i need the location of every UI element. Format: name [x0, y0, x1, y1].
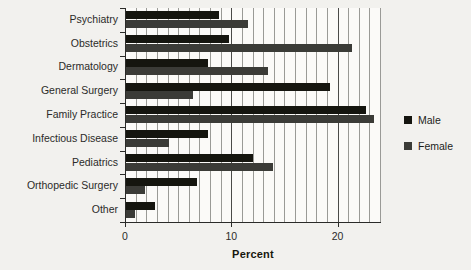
- y-tick: [120, 103, 125, 104]
- bar-female: [125, 186, 145, 194]
- y-axis-label: Pediatrics: [0, 156, 118, 168]
- bar-group: [125, 198, 380, 222]
- bar-female: [125, 67, 268, 75]
- y-axis-label: Other: [0, 203, 118, 215]
- bar-male: [125, 154, 253, 162]
- x-tick: [231, 222, 232, 227]
- y-axis-label: Family Practice: [0, 108, 118, 120]
- legend-label-female: Female: [418, 140, 453, 152]
- bar-female: [125, 44, 352, 52]
- plot-area: [125, 8, 380, 222]
- x-tick: [125, 222, 126, 227]
- y-axis-line: [125, 8, 126, 223]
- bar-group: [125, 32, 380, 56]
- y-tick: [120, 79, 125, 80]
- y-axis-label: Infectious Disease: [0, 132, 118, 144]
- legend-swatch-female-icon: [404, 142, 412, 150]
- x-axis-line: [125, 222, 381, 223]
- chart-legend: Male Female: [404, 114, 453, 166]
- bar-male: [125, 11, 219, 19]
- bar-male: [125, 35, 229, 43]
- y-tick: [120, 8, 125, 9]
- bar-group: [125, 151, 380, 175]
- x-tick-label: 0: [110, 230, 140, 242]
- bar-female: [125, 139, 169, 147]
- y-axis-label: General Surgery: [0, 84, 118, 96]
- bar-male: [125, 130, 208, 138]
- y-tick: [120, 127, 125, 128]
- bar-female: [125, 91, 193, 99]
- bar-female: [125, 20, 248, 28]
- x-tick-label: 10: [216, 230, 246, 242]
- y-axis-labels: PsychiatryObstetricsDermatologyGeneral S…: [0, 0, 118, 270]
- bar-female: [125, 210, 135, 218]
- y-axis-label: Dermatology: [0, 60, 118, 72]
- x-axis-title: Percent: [125, 248, 381, 260]
- chart-container: PsychiatryObstetricsDermatologyGeneral S…: [0, 0, 471, 270]
- gridline: [380, 8, 381, 222]
- bar-male: [125, 178, 197, 186]
- bar-group: [125, 8, 380, 32]
- y-tick: [120, 32, 125, 33]
- x-tick-label: 20: [323, 230, 353, 242]
- y-tick: [120, 174, 125, 175]
- bar-male: [125, 59, 208, 67]
- y-axis-label: Orthopedic Surgery: [0, 179, 118, 191]
- bar-male: [125, 106, 366, 114]
- bar-male: [125, 202, 155, 210]
- bar-group: [125, 103, 380, 127]
- y-tick: [120, 198, 125, 199]
- y-tick: [120, 56, 125, 57]
- bar-group: [125, 79, 380, 103]
- legend-item-male: Male: [404, 114, 453, 126]
- bar-group: [125, 56, 380, 80]
- x-tick: [338, 222, 339, 227]
- bar-rows: [125, 8, 380, 222]
- bar-group: [125, 127, 380, 151]
- legend-item-female: Female: [404, 140, 453, 152]
- legend-swatch-male-icon: [404, 116, 412, 124]
- y-tick: [120, 151, 125, 152]
- bar-group: [125, 174, 380, 198]
- legend-label-male: Male: [418, 114, 441, 126]
- bar-female: [125, 115, 374, 123]
- y-axis-label: Obstetrics: [0, 37, 118, 49]
- bar-male: [125, 83, 330, 91]
- bar-female: [125, 163, 273, 171]
- y-axis-label: Psychiatry: [0, 13, 118, 25]
